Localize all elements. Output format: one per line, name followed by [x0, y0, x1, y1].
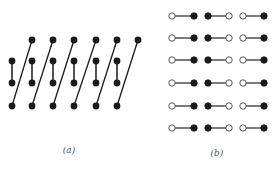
filled-node	[191, 35, 197, 41]
filled-node	[29, 80, 36, 87]
filled-node	[9, 103, 16, 110]
filled-node	[205, 13, 211, 19]
filled-node	[114, 80, 121, 87]
filled-node	[50, 37, 57, 44]
filled-node	[191, 103, 197, 109]
filled-node	[9, 80, 16, 87]
filled-node	[191, 13, 197, 19]
filled-node	[261, 103, 267, 109]
diagonal-bond	[12, 40, 32, 106]
open-node	[240, 35, 246, 41]
diagonal-bond	[74, 40, 96, 106]
filled-node	[93, 103, 100, 110]
open-node	[226, 80, 232, 86]
open-node	[169, 35, 175, 41]
open-node	[226, 125, 232, 131]
open-node	[240, 80, 246, 86]
open-node	[169, 125, 175, 131]
filled-node	[135, 37, 142, 44]
filled-node	[205, 57, 211, 63]
filled-node	[261, 13, 267, 19]
filled-node	[50, 58, 57, 65]
filled-node	[93, 58, 100, 65]
filled-node	[191, 57, 197, 63]
panel-a-lattice	[9, 37, 142, 110]
filled-node	[114, 37, 121, 44]
filled-node	[191, 125, 197, 131]
open-node	[240, 125, 246, 131]
filled-node	[93, 80, 100, 87]
panel-a-caption: (a)	[63, 145, 75, 155]
filled-node	[93, 37, 100, 44]
filled-node	[261, 35, 267, 41]
open-node	[240, 57, 246, 63]
filled-node	[71, 37, 78, 44]
diagonal-bond	[53, 40, 74, 106]
filled-node	[71, 103, 78, 110]
open-node	[169, 57, 175, 63]
open-node	[169, 80, 175, 86]
filled-node	[205, 103, 211, 109]
filled-node	[205, 125, 211, 131]
filled-node	[29, 37, 36, 44]
filled-node	[191, 80, 197, 86]
filled-node	[114, 103, 121, 110]
open-node	[226, 57, 232, 63]
filled-node	[71, 58, 78, 65]
open-node	[240, 103, 246, 109]
panel-b-dimer-pairs	[169, 13, 267, 131]
filled-node	[29, 58, 36, 65]
panel-b-caption: (b)	[211, 148, 224, 158]
diagonal-bond	[96, 40, 117, 106]
filled-node	[114, 58, 121, 65]
open-node	[169, 103, 175, 109]
filled-node	[261, 125, 267, 131]
filled-node	[29, 103, 36, 110]
filled-node	[261, 57, 267, 63]
diagonal-bond	[32, 40, 53, 106]
diagram-figure	[0, 0, 279, 170]
filled-node	[205, 80, 211, 86]
open-node	[226, 13, 232, 19]
open-node	[226, 35, 232, 41]
open-node	[226, 103, 232, 109]
open-node	[240, 13, 246, 19]
filled-node	[9, 58, 16, 65]
filled-node	[50, 80, 57, 87]
filled-node	[261, 80, 267, 86]
diagonal-bond	[117, 40, 138, 106]
filled-node	[50, 103, 57, 110]
filled-node	[71, 80, 78, 87]
filled-node	[205, 35, 211, 41]
open-node	[169, 13, 175, 19]
